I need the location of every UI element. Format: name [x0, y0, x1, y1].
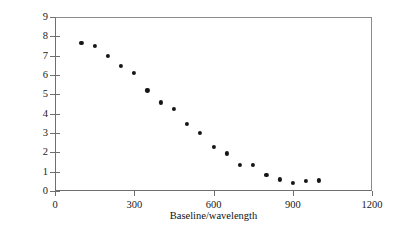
x-axis-tick	[55, 191, 56, 196]
data-point	[238, 163, 242, 167]
x-axis-tick	[214, 191, 215, 196]
x-axis-tick	[372, 191, 373, 196]
data-points-layer	[55, 17, 372, 191]
data-point	[79, 41, 83, 45]
data-point	[106, 54, 110, 58]
data-point	[251, 162, 255, 166]
data-point	[93, 44, 97, 48]
data-point	[198, 131, 202, 135]
y-axis-tick-label: 7	[43, 50, 48, 61]
y-axis-tick-label: 3	[43, 128, 48, 139]
data-point	[185, 122, 189, 126]
data-point	[132, 71, 136, 75]
chart-figure: 0123456789 03006009001200 Baseline/wavel…	[0, 0, 402, 237]
x-axis-tick-label: 900	[285, 200, 301, 211]
y-axis-tick-label: 4	[43, 108, 48, 119]
y-axis-tick-label: 2	[43, 147, 48, 158]
y-axis-tick-label: 1	[43, 166, 48, 177]
x-axis-title: Baseline/wavelength	[55, 211, 372, 222]
data-point	[225, 151, 229, 155]
x-axis-tick-label: 600	[206, 200, 222, 211]
data-point	[159, 100, 163, 104]
y-axis-tick-label: 0	[43, 186, 48, 197]
y-axis-tick-label: 8	[43, 31, 48, 42]
x-axis-tick	[293, 191, 294, 196]
y-axis-tick-label: 9	[43, 12, 48, 23]
x-axis-tick-label: 300	[126, 200, 142, 211]
data-point	[119, 64, 123, 68]
y-axis-tick-label: 5	[43, 89, 48, 100]
y-axis-tick-label: 6	[43, 70, 48, 81]
data-point	[211, 145, 215, 149]
data-point	[304, 179, 308, 183]
data-point	[145, 88, 149, 92]
x-axis-tick	[134, 191, 135, 196]
x-axis-tick-label: 1200	[362, 200, 383, 211]
data-point	[172, 107, 176, 111]
data-point	[317, 178, 321, 182]
x-axis-tick-label: 0	[52, 200, 57, 211]
data-point	[277, 177, 281, 181]
data-point	[291, 181, 295, 185]
data-point	[264, 173, 268, 177]
